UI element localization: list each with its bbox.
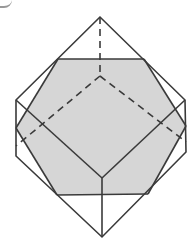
shaded-hexagon-face [16, 59, 186, 195]
polyhedron-diagram [0, 0, 194, 247]
